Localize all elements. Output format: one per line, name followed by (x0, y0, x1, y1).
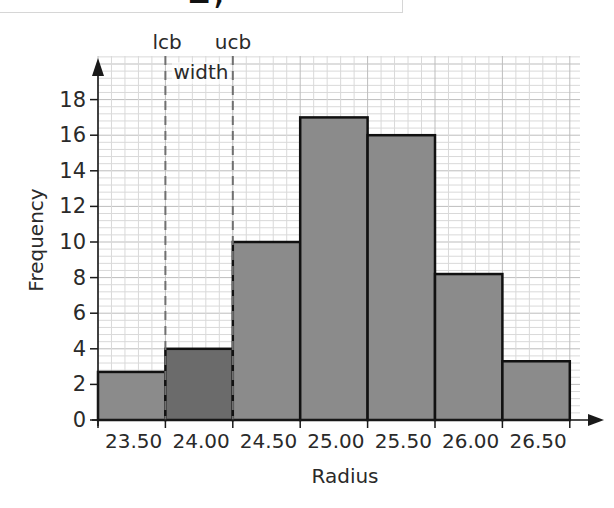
y-tick-label: 10 (59, 230, 86, 254)
y-tick-label: 18 (59, 88, 86, 112)
x-tick-label: 25.00 (307, 429, 364, 453)
x-tick-label: 24.00 (172, 429, 229, 453)
y-tick-label: 14 (59, 159, 86, 183)
histogram-bar (502, 361, 569, 420)
annotation-width: width (173, 60, 228, 84)
histogram-bar (435, 274, 502, 420)
x-axis-ticks: 23.5024.0024.5025.0025.5026.0026.50 (98, 420, 570, 453)
histogram-bar (300, 117, 367, 420)
x-tick-label: 25.50 (375, 429, 432, 453)
y-tick-label: 0 (73, 408, 86, 432)
histogram-bar (368, 135, 435, 420)
x-axis-label: Radius (311, 464, 378, 488)
annotation-lcb: lcb (152, 30, 181, 54)
x-tick-label: 23.50 (105, 429, 162, 453)
histogram-bar (233, 242, 300, 420)
histogram-bar (98, 372, 165, 420)
y-tick-label: 16 (59, 123, 86, 147)
bars (98, 117, 570, 420)
y-axis-ticks: 024681012141618 (59, 88, 98, 432)
annotation-ucb: ucb (215, 30, 251, 54)
y-tick-label: 6 (73, 301, 86, 325)
y-tick-label: 2 (73, 372, 86, 396)
histogram-bar (165, 349, 232, 420)
y-axis-label: Frequency (24, 188, 48, 291)
y-tick-label: 12 (59, 194, 86, 218)
x-tick-label: 24.50 (240, 429, 297, 453)
y-tick-label: 4 (73, 337, 86, 361)
x-tick-label: 26.50 (509, 429, 566, 453)
histogram-chart: 024681012141618 23.5024.0024.5025.0025.5… (0, 0, 614, 508)
y-tick-label: 8 (73, 266, 86, 290)
x-tick-label: 26.00 (442, 429, 499, 453)
